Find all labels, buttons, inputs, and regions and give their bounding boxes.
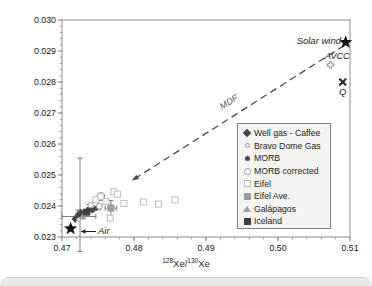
x-tick-label: 0.47 [53,243,70,253]
y-tick-label: 0.025 [34,170,56,180]
x-title-mid2: Xe [198,258,210,269]
legend-item-morb: MORB [245,152,330,165]
data-point-eifel [172,197,178,203]
x-tick-label: 0.50 [269,243,286,253]
legend-label: MORB [254,153,280,163]
legend-label: Well gas - Caffee [254,128,320,138]
air-label: Air [98,225,110,236]
filled-gray-square-icon [244,193,251,200]
filled-triangle-icon [243,206,251,212]
small-open-circle-icon [245,143,250,148]
data-point-bravo-dome-gas [77,218,81,222]
y-tick-label: 0.023 [34,232,56,242]
open-square-icon [244,180,251,187]
legend-item-iceland: Iceland [245,215,330,228]
legend-label: Eifel [254,179,271,189]
x-axis-title: 128Xe/130Xe [0,257,372,269]
x-title-sup1: 128 [162,257,173,264]
air-arrowhead [81,229,86,233]
legend-label: Eifel Ave. [254,191,290,201]
x-tick-label: 0.51 [341,243,358,253]
data-point-eifel-ave- [107,205,114,212]
caption-strip [0,277,372,286]
legend-item-galapagos: Galápagos [245,203,330,216]
q-label: Q [339,86,346,97]
data-point-q [340,79,346,85]
legend-item-well-gas: Well gas - Caffee [245,127,330,140]
y-tick-label: 0.029 [34,46,56,56]
plot-legend: Well gas - Caffee Bravo Dome Gas MORB MO… [237,123,331,229]
data-point-eifel [155,201,161,207]
x-title-mid1: Xe/ [173,258,187,269]
x-tick-label: 0.49 [197,243,214,253]
solar-wind-label: Solar wind [297,35,341,46]
legend-label: Iceland [254,216,282,226]
legend-label: Bravo Dome Gas [254,141,321,151]
data-point-iceland [83,209,90,216]
filled-circle-icon [245,156,250,161]
data-point-eifel [121,201,127,207]
y-tick-label: 0.030 [34,15,56,25]
y-tick-label: 0.028 [34,77,56,87]
legend-item-eifel-ave: Eifel Ave. [245,190,330,203]
y-tick-label: 0.024 [34,201,56,211]
data-point-eifel [107,215,113,221]
mdf-arrowhead [132,175,139,181]
y-tick-label: 0.027 [34,108,56,118]
legend-item-bravo-dome: Bravo Dome Gas [245,140,330,153]
data-point-eifel [114,191,120,197]
filled-diamond-icon [243,129,251,137]
filled-dark-square-icon [244,218,251,225]
data-point-eifel [103,199,109,205]
figure-xenon-isotope-plot: 0.470.480.490.500.510.0230.0240.0250.026… [0,0,372,286]
open-circle-icon [244,168,251,175]
data-point-avcc [327,62,334,69]
data-point-morb-corrected [97,203,103,209]
legend-item-eifel: Eifel [245,177,330,190]
data-point-air [64,222,77,235]
legend-label: Galápagos [254,204,296,214]
legend-item-morb-corrected: MORB corrected [245,165,330,178]
avcc-label: AVCC [325,51,350,61]
x-title-sup2: 130 [187,257,198,264]
y-tick-label: 0.026 [34,139,56,149]
x-tick-label: 0.48 [125,243,142,253]
legend-label: MORB corrected [254,166,319,176]
data-point-eifel [140,199,146,205]
